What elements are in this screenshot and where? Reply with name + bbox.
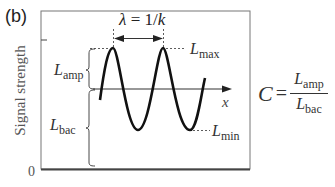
lmin-main: L [212,122,221,139]
x-axis-label: x [222,94,229,111]
lamp-label: Lamp [54,61,84,83]
amp-brace [86,49,95,89]
formula-fraction: Lamp Lbac [290,70,328,117]
lbac-main: L [50,116,59,133]
numerator-main: L [294,70,303,87]
denominator-sub: bac [305,102,322,116]
wavenumber-symbol: k [158,10,166,29]
bac-brace [86,90,95,166]
fraction-bar [290,93,328,94]
lbac-sub: bac [59,123,76,137]
formula-equals: = [276,82,287,105]
plot-frame [41,11,250,169]
y-axis-label: Signal strength [12,41,29,141]
lamp-sub: amp [63,68,84,82]
denominator-main: L [296,95,305,112]
formula-numerator: Lamp [294,70,324,92]
lamp-main: L [54,61,63,78]
x-axis-arrow-icon [222,86,232,93]
lbac-label: Lbac [50,116,76,138]
lmax-main: L [190,40,199,57]
arrow-left-icon [114,35,124,42]
y-zero-label: 0 [28,164,35,180]
lmax-sub: max [199,47,220,61]
numerator-sub: amp [303,77,324,91]
formula-denominator: Lbac [296,95,322,117]
lmin-label: Lmin [212,122,240,144]
wavelength-equals: = 1/ [126,10,157,29]
arrow-right-icon [153,35,163,42]
lmin-sub: min [221,129,240,143]
contrast-formula: C = Lamp Lbac [258,70,328,117]
wavelength-label: λ = 1/k [119,10,165,30]
lmax-label: Lmax [190,40,220,62]
formula-lhs: C [258,81,273,107]
